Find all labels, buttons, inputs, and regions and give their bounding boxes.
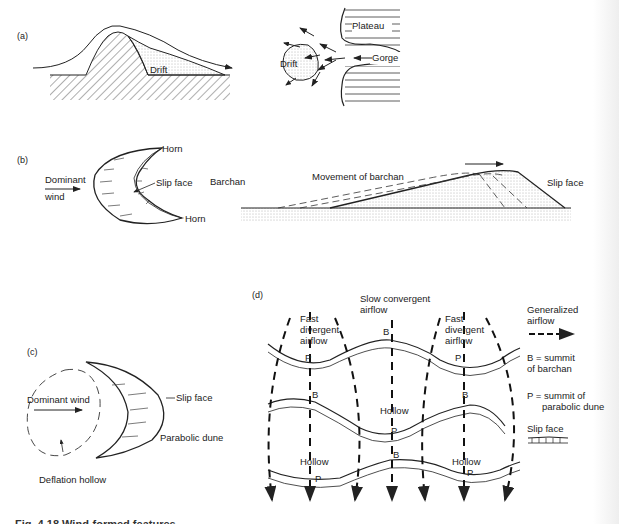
slip-face-legend-symbol	[528, 437, 568, 438]
svg-text:Generalized: Generalized	[527, 304, 578, 315]
summit-p: P	[391, 425, 397, 436]
dominant-label: Dominant	[45, 174, 86, 185]
summit-p: P	[467, 467, 473, 478]
figure-caption: Fig. 4.18 Wind-formed features	[15, 515, 176, 524]
dominant-wind-label: Dominant wind	[27, 394, 90, 405]
hollow-label: Hollow	[452, 456, 481, 467]
panel-a: (a) Drift Drift Plateau Gorge	[17, 8, 402, 106]
panel-d: (d) Slow convergent airflow Fast diverge…	[252, 290, 604, 500]
svg-text:divergent: divergent	[445, 324, 484, 335]
wind-features-figure: (a) Drift Drift Plateau Gorge (b)	[0, 0, 619, 524]
deflation-hollow-outline	[27, 369, 100, 455]
summit-p: P	[315, 473, 321, 484]
slip-face-label: Slip face	[156, 177, 192, 188]
svg-text:Fast: Fast	[300, 313, 319, 324]
svg-text:parabolic dune: parabolic dune	[542, 401, 604, 412]
slip-face-profile-label: Slip face	[547, 177, 583, 188]
summit-b: B	[393, 449, 399, 460]
summit-b: B	[462, 389, 468, 400]
hollow-label: Hollow	[300, 456, 329, 467]
slow-convergent-label-2: airflow	[360, 304, 388, 315]
svg-text:airflow: airflow	[300, 335, 328, 346]
parabolic-dune-outline	[86, 362, 164, 458]
svg-text:P = summit of: P = summit of	[527, 390, 586, 401]
horn-bottom-label: Horn	[185, 213, 206, 224]
panel-d-label: (d)	[252, 290, 263, 300]
panel-b: (b) Horn Horn Slip face Dominant wind Ba…	[17, 143, 583, 224]
svg-text:of barchan: of barchan	[527, 363, 572, 374]
svg-text:airflow: airflow	[527, 315, 555, 326]
svg-text:Slip face: Slip face	[527, 423, 563, 434]
summit-p: P	[305, 352, 311, 363]
barchan-label: Barchan	[210, 176, 245, 187]
panel-c-label: (c)	[27, 347, 38, 357]
panel-a-label: (a)	[17, 31, 28, 41]
summit-b: B	[312, 389, 318, 400]
gorge-label: Gorge	[372, 52, 398, 63]
summit-p: P	[455, 352, 461, 363]
wind-label: wind	[44, 191, 65, 202]
panel-c: (c) Dominant wind Slip face Parabolic du…	[27, 347, 223, 485]
plateau-label: Plateau	[352, 20, 384, 31]
summit-b: B	[383, 326, 389, 337]
svg-text:airflow: airflow	[445, 335, 473, 346]
parabolic-dune-label: Parabolic dune	[160, 432, 223, 443]
drift-plan-label: Drift	[280, 58, 298, 69]
horn-top-label: Horn	[162, 143, 183, 154]
deflation-hollow-label: Deflation hollow	[39, 474, 106, 485]
panel-d-legend: Generalized airflow B = summit of barcha…	[527, 304, 604, 443]
plateau-lower	[345, 66, 400, 106]
drift-label: Drift	[150, 64, 168, 75]
ground-sand	[241, 208, 571, 222]
svg-text:divergent: divergent	[300, 324, 339, 335]
hollow-label: Hollow	[380, 405, 409, 416]
panel-b-label: (b)	[17, 155, 28, 165]
fast-divergent-left: Fast divergent airflow	[300, 313, 339, 346]
svg-text:Fast: Fast	[445, 313, 464, 324]
slow-convergent-label-1: Slow convergent	[360, 293, 431, 304]
movement-label: Movement of barchan	[312, 171, 404, 182]
slip-face-c-label: Slip face	[176, 392, 212, 403]
svg-text:B = summit: B = summit	[527, 352, 575, 363]
